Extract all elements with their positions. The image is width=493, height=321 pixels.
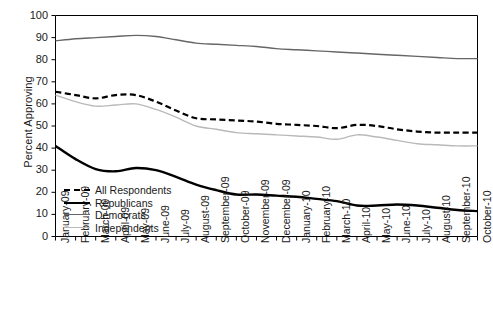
x-tick-label: April-10 — [361, 206, 372, 242]
x-tick-label: January-10 — [301, 190, 312, 243]
legend-item-label: All Respondents — [95, 184, 171, 197]
x-tick-label: July-10 — [421, 209, 432, 243]
x-tick-label: February-10 — [321, 185, 332, 242]
x-tick-label: September-09 — [220, 176, 231, 243]
legend-swatch-icon — [64, 198, 90, 208]
x-tick-label: August-09 — [200, 195, 211, 243]
legend-swatch-icon — [64, 223, 90, 233]
legend-item-republicans: Republicans — [64, 197, 171, 210]
x-tick-label: May-10 — [381, 207, 392, 242]
x-tick-label: October-10 — [482, 190, 493, 243]
legend-item-democrats: Democrats — [64, 209, 171, 222]
legend-item-label: Republicans — [95, 197, 153, 210]
x-tick-label: March-10 — [341, 198, 352, 242]
x-tick-label: November-09 — [260, 179, 271, 243]
legend-item-label: Democrats — [95, 209, 146, 222]
legend-swatch-icon — [64, 185, 90, 195]
chart-legend: All RespondentsRepublicansDemocratsIndep… — [64, 184, 171, 234]
x-tick-label: September-10 — [461, 176, 472, 243]
legend-item-label: Independents — [95, 222, 159, 235]
x-tick-label: June-10 — [401, 205, 412, 243]
legend-swatch-icon — [64, 210, 90, 220]
x-tick-label: December-09 — [281, 179, 292, 243]
x-tick-label: July-09 — [180, 209, 191, 243]
legend-item-all-respondents: All Respondents — [64, 184, 171, 197]
legend-item-independents: Independents — [64, 222, 171, 235]
x-tick-label: August-10 — [441, 195, 452, 243]
x-tick-label: October-09 — [240, 190, 251, 243]
